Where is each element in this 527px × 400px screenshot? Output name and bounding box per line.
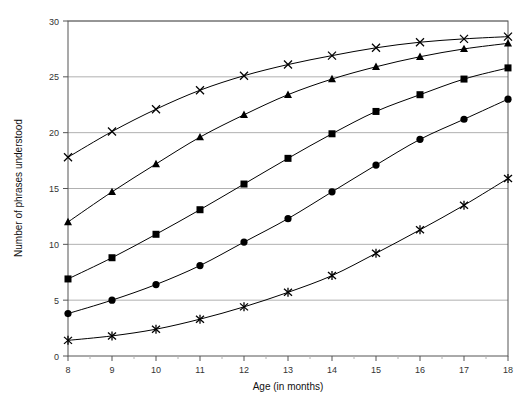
x-tick-label: 17 — [459, 365, 469, 375]
y-tick-label: 10 — [49, 240, 59, 250]
x-tick-label: 14 — [327, 365, 337, 375]
data-point-circle — [108, 297, 115, 304]
data-point-square — [153, 231, 160, 238]
data-point-square — [373, 108, 380, 115]
x-tick-label: 16 — [415, 365, 425, 375]
x-tick-label: 8 — [65, 365, 70, 375]
y-tick-label: 15 — [49, 184, 59, 194]
data-point-circle — [328, 188, 335, 195]
data-point-circle — [372, 161, 379, 168]
data-point-circle — [504, 96, 511, 103]
chart-background — [0, 0, 527, 400]
x-tick-label: 12 — [239, 365, 249, 375]
y-tick-label: 5 — [54, 296, 59, 306]
data-point-square — [241, 181, 248, 188]
data-point-square — [505, 64, 512, 71]
x-axis-title: Age (in months) — [253, 381, 324, 392]
y-tick-label: 30 — [49, 17, 59, 27]
data-point-square — [461, 76, 468, 83]
y-axis-title: Number of phrases understood — [13, 119, 24, 257]
data-point-square — [197, 206, 204, 213]
data-point-circle — [196, 262, 203, 269]
chart-canvas: 89101112131415161718 051015202530 Age (i… — [0, 0, 527, 400]
data-point-square — [109, 254, 116, 261]
data-point-circle — [152, 281, 159, 288]
data-point-square — [285, 155, 292, 162]
line-chart: 89101112131415161718 051015202530 Age (i… — [0, 0, 527, 400]
data-point-square — [417, 91, 424, 98]
data-point-circle — [64, 310, 71, 317]
x-tick-label: 9 — [109, 365, 114, 375]
data-point-circle — [460, 116, 467, 123]
y-tick-label: 0 — [54, 352, 59, 362]
x-tick-label: 13 — [283, 365, 293, 375]
x-tick-label: 18 — [503, 365, 513, 375]
x-tick-label: 15 — [371, 365, 381, 375]
x-tick-label: 10 — [151, 365, 161, 375]
y-tick-label: 20 — [49, 128, 59, 138]
y-tick-label: 25 — [49, 72, 59, 82]
data-point-circle — [416, 136, 423, 143]
data-point-circle — [284, 215, 291, 222]
data-point-square — [329, 130, 336, 137]
data-point-circle — [240, 239, 247, 246]
data-point-square — [65, 275, 72, 282]
x-tick-label: 11 — [195, 365, 204, 375]
